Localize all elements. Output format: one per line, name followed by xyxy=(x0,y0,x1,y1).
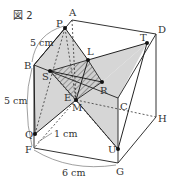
measure-ab: 5 cm xyxy=(30,37,53,48)
label-M: M xyxy=(72,102,82,113)
label-D: D xyxy=(158,24,166,35)
label-L: L xyxy=(87,46,94,57)
label-H: H xyxy=(158,113,167,124)
label-S: S xyxy=(42,71,49,82)
label-G: G xyxy=(116,166,124,177)
measure-bf: 5 cm xyxy=(4,95,27,106)
label-A: A xyxy=(68,7,77,18)
measure-fg: 6 cm xyxy=(62,167,85,178)
label-T: T xyxy=(140,32,147,43)
label-E: E xyxy=(64,92,71,103)
cube-diagram: 図 2 A B C D E F G H P L S R T M Q U 5 cm… xyxy=(0,0,175,182)
label-P: P xyxy=(56,18,63,29)
figure-title: 図 2 xyxy=(13,10,33,21)
label-B: B xyxy=(24,60,31,71)
label-Q: Q xyxy=(25,129,33,140)
label-U: U xyxy=(108,144,116,155)
label-F: F xyxy=(25,144,32,155)
label-C: C xyxy=(120,101,128,112)
label-R: R xyxy=(100,85,108,96)
measure-fq: 1 cm xyxy=(54,128,77,139)
